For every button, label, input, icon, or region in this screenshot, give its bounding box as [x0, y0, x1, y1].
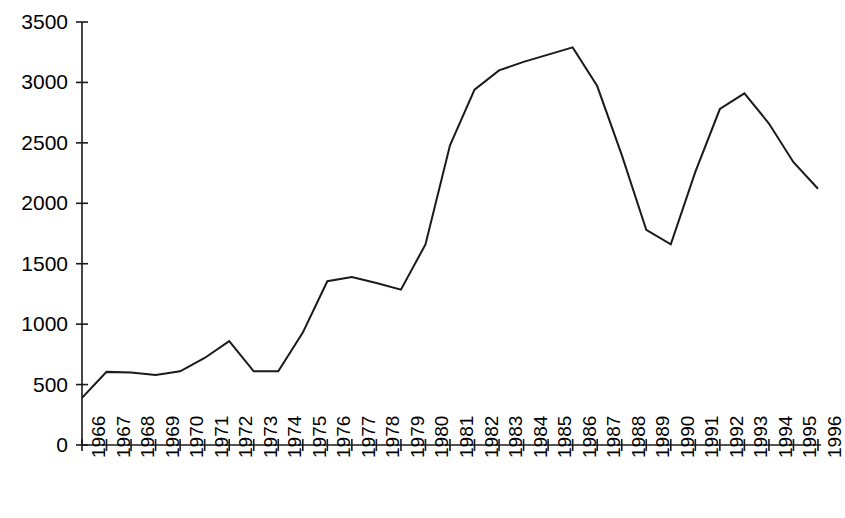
x-axis-tick-label: 1970 [187, 416, 206, 458]
x-axis-tick-label: 1984 [531, 416, 550, 458]
x-axis-tick-label: 1981 [457, 416, 476, 458]
x-axis-tick-label: 1967 [114, 416, 133, 458]
x-axis-tick-label: 1982 [482, 416, 501, 458]
x-axis-tick-label: 1990 [678, 416, 697, 458]
x-axis-tick-label: 1985 [555, 416, 574, 458]
x-axis-tick-label: 1995 [800, 416, 819, 458]
x-axis-tick-label: 1966 [89, 416, 108, 458]
y-axis-tick-label: 2500 [21, 132, 68, 153]
x-axis-tick-label: 1973 [261, 416, 280, 458]
x-axis-tick-label: 1983 [506, 416, 525, 458]
x-axis-tick-label: 1987 [604, 416, 623, 458]
x-axis-tick-label: 1996 [825, 416, 844, 458]
y-axis-tick-label: 500 [33, 374, 68, 395]
x-axis-tick-label: 1986 [580, 416, 599, 458]
x-axis-tick-label: 1992 [727, 416, 746, 458]
x-axis-tick-label: 1980 [432, 416, 451, 458]
x-axis-tick-label: 1991 [702, 416, 721, 458]
x-axis-tick-label: 1968 [138, 416, 157, 458]
x-axis-tick-label: 1989 [653, 416, 672, 458]
chart-series [82, 47, 818, 397]
y-axis-tick-label: 2000 [21, 192, 68, 213]
x-axis-tick-label: 1976 [334, 416, 353, 458]
x-axis-tick-label: 1969 [163, 416, 182, 458]
x-axis-tick-label: 1971 [212, 416, 231, 458]
x-axis-tick-label: 1988 [629, 416, 648, 458]
data-line-series-1 [82, 47, 818, 397]
x-axis-tick-label: 1978 [383, 416, 402, 458]
y-axis-tick-label: 1000 [21, 313, 68, 334]
chart-axes [76, 22, 821, 451]
x-axis-tick-label: 1974 [285, 416, 304, 458]
y-axis-tick-label: 0 [56, 434, 68, 455]
x-axis-tick-label: 1975 [310, 416, 329, 458]
y-axis-tick-label: 3000 [21, 71, 68, 92]
y-axis-tick-label: 1500 [21, 253, 68, 274]
y-axis-tick-label: 3500 [21, 11, 68, 32]
x-axis-tick-label: 1994 [776, 416, 795, 458]
x-axis-tick-label: 1993 [751, 416, 770, 458]
x-axis-tick-label: 1979 [408, 416, 427, 458]
x-axis-tick-label: 1977 [359, 416, 378, 458]
x-axis-tick-label: 1972 [236, 416, 255, 458]
